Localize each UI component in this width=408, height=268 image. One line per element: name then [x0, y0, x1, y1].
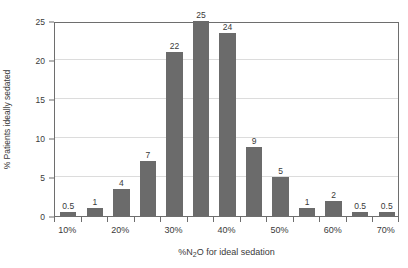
y-tick-label: 25 — [36, 18, 45, 27]
bar[interactable] — [219, 33, 235, 216]
bar-value-label: 0.5 — [381, 202, 393, 211]
x-axis-title-pre: %N — [178, 247, 193, 257]
bar-value-label: 0.5 — [62, 202, 74, 211]
x-tick-label: 30% — [164, 224, 182, 236]
bar[interactable] — [379, 212, 395, 216]
bar[interactable] — [113, 189, 129, 216]
x-tick-mark — [107, 217, 108, 222]
bar[interactable] — [299, 208, 315, 216]
x-tick-mark — [240, 217, 241, 222]
bar-slot[interactable]: 0.5 — [379, 23, 395, 216]
bar-slot[interactable]: 1 — [299, 23, 315, 216]
bar-value-label: 4 — [119, 179, 124, 188]
bar[interactable] — [140, 161, 156, 216]
bar-value-label: 25 — [196, 11, 205, 20]
bar[interactable] — [272, 177, 288, 216]
bar-value-label: 24 — [223, 23, 232, 32]
x-axis-title-subscript: 2 — [193, 251, 197, 258]
y-tick-label: 0 — [40, 213, 45, 222]
bar-value-label: 9 — [252, 137, 257, 146]
x-axis-ticks — [54, 217, 399, 223]
bar-slot[interactable]: 0.5 — [60, 23, 76, 216]
bar-slot[interactable]: 24 — [219, 23, 235, 216]
bar[interactable] — [352, 212, 368, 216]
bar-value-label: 0.5 — [354, 202, 366, 211]
bar-value-label: 1 — [92, 198, 97, 207]
bar-slot[interactable]: 2 — [325, 23, 341, 216]
bar-slot[interactable]: 5 — [272, 23, 288, 216]
bar[interactable] — [193, 21, 209, 216]
y-axis-ticks: 0510152025 — [0, 22, 54, 217]
bar-slot[interactable]: 7 — [140, 23, 156, 216]
y-tick-label: 20 — [36, 57, 45, 66]
x-tick-mark — [372, 217, 373, 222]
bar-slot[interactable]: 25 — [193, 23, 209, 216]
y-tick-label: 10 — [36, 135, 45, 144]
bar-value-label: 7 — [146, 151, 151, 160]
x-axis-title-post: O for ideal sedation — [197, 247, 275, 257]
x-tick-label: 10% — [58, 224, 76, 236]
x-tick-label: 60% — [324, 224, 342, 236]
x-tick-mark — [346, 217, 347, 222]
bar-slot[interactable]: 4 — [113, 23, 129, 216]
bar-value-label: 1 — [305, 198, 310, 207]
x-axis-tick-labels: 10%20%30%40%50%60%70% — [54, 224, 399, 238]
bar[interactable] — [87, 208, 103, 216]
bar-slot[interactable]: 22 — [166, 23, 182, 216]
x-tick-mark — [160, 217, 161, 222]
bar-slot[interactable]: 0.5 — [352, 23, 368, 216]
x-tick-mark — [398, 217, 399, 222]
bar-chart-figure: % Patients ideally sedated 0510152025 0.… — [0, 0, 408, 268]
bar[interactable] — [325, 201, 341, 216]
bar[interactable] — [246, 147, 262, 216]
bar-value-label: 22 — [170, 42, 179, 51]
x-tick-mark — [266, 217, 267, 222]
x-tick-mark — [319, 217, 320, 222]
x-tick-label: 40% — [217, 224, 235, 236]
x-tick-label: 70% — [377, 224, 395, 236]
bar-value-label: 2 — [331, 191, 336, 200]
x-tick-mark — [81, 217, 82, 222]
y-tick-label: 15 — [36, 96, 45, 105]
x-tick-mark — [187, 217, 188, 222]
x-tick-label: 50% — [271, 224, 289, 236]
bar-series: 0.514722252495120.50.5 — [55, 23, 398, 216]
y-tick-label: 5 — [40, 174, 45, 183]
x-tick-label: 20% — [111, 224, 129, 236]
bar-slot[interactable]: 1 — [87, 23, 103, 216]
x-axis-title: %N2O for ideal sedation — [54, 246, 399, 259]
bar[interactable] — [166, 52, 182, 216]
plot-area: 0.514722252495120.50.5 — [54, 22, 399, 217]
x-tick-mark — [54, 217, 55, 222]
bar[interactable] — [60, 212, 76, 216]
bar-slot[interactable]: 9 — [246, 23, 262, 216]
x-tick-mark — [134, 217, 135, 222]
x-tick-mark — [213, 217, 214, 222]
x-tick-mark — [293, 217, 294, 222]
bar-value-label: 5 — [278, 167, 283, 176]
